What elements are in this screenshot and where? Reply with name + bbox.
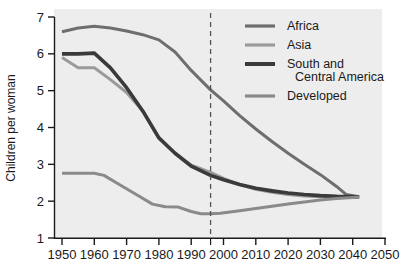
y-tick-label: 7: [37, 10, 44, 25]
y-axis-title: Children per woman: [4, 74, 18, 181]
y-tick-label: 5: [37, 83, 44, 98]
x-tick-label: 2000: [209, 247, 238, 262]
legend-label-africa: Africa: [287, 19, 319, 33]
x-tick-label: 2030: [306, 247, 335, 262]
x-tick-label: 2020: [274, 247, 303, 262]
legend-label-asia: Asia: [287, 38, 311, 52]
legend-label-developed: Developed: [287, 89, 347, 103]
legend-label-south-and: South and: [287, 57, 344, 71]
chart-svg: 1234567 19501960197019801990200020102020…: [0, 0, 414, 272]
y-tick-label: 2: [37, 194, 44, 209]
fertility-line-chart: 1234567 19501960197019801990200020102020…: [0, 0, 414, 272]
x-tick-label: 1960: [80, 247, 109, 262]
x-tick-label: 1950: [48, 247, 77, 262]
x-tick-label: 1990: [177, 247, 206, 262]
plot-area-background: [54, 9, 382, 238]
y-tick-label: 6: [37, 46, 44, 61]
y-tick-label: 3: [37, 157, 44, 172]
y-tick-label: 4: [37, 120, 44, 135]
legend-label-central-america: Central America: [295, 70, 384, 84]
x-tick-label: 2050: [371, 247, 400, 262]
x-tick-label: 2040: [338, 247, 367, 262]
x-tick-label: 2010: [241, 247, 270, 262]
x-tick-label: 1970: [112, 247, 141, 262]
y-tick-label: 1: [37, 231, 44, 246]
x-tick-label: 1980: [144, 247, 173, 262]
